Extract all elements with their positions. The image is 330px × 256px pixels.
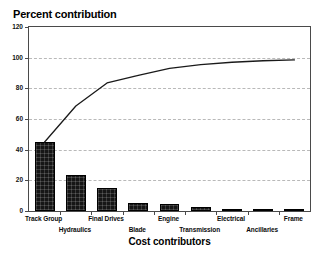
bar	[191, 207, 211, 211]
x-axis-category-label: Transmission	[179, 226, 220, 233]
bar	[222, 209, 242, 211]
chart-title: Percent contribution	[13, 8, 117, 20]
bar	[284, 209, 304, 211]
bars-layer	[29, 27, 310, 211]
y-axis-label: 100	[0, 53, 23, 60]
bar	[253, 209, 273, 211]
x-axis-category-label: Electrical	[217, 215, 245, 222]
x-axis-category-label: Final Drives	[88, 215, 124, 222]
x-axis-title: Cost contributors	[28, 236, 311, 247]
bar	[97, 188, 117, 211]
x-axis-category-label: Blade	[129, 226, 146, 233]
x-axis-category-labels: Track GroupHydraulicsFinal DrivesBladeEn…	[28, 212, 311, 238]
x-axis-category-label: Ancillaries	[246, 226, 278, 233]
bar	[128, 203, 148, 211]
plot-area	[28, 26, 311, 212]
bar	[66, 175, 86, 211]
y-axis-label: 60	[0, 115, 23, 122]
pareto-chart: Percent contribution 020406080100120 Tra…	[0, 0, 330, 256]
x-axis-category-label: Frame	[284, 215, 303, 222]
x-axis-category-label: Track Group	[25, 215, 62, 222]
bar	[160, 204, 180, 211]
y-axis-label: 20	[0, 176, 23, 183]
y-axis-label: 40	[0, 145, 23, 152]
y-axis-label: 0	[0, 207, 23, 214]
x-axis-category-label: Hydraulics	[59, 226, 91, 233]
x-axis-category-label: Engine	[158, 215, 179, 222]
bar	[35, 142, 55, 211]
y-axis-label: 80	[0, 84, 23, 91]
y-axis-label: 120	[0, 23, 23, 30]
